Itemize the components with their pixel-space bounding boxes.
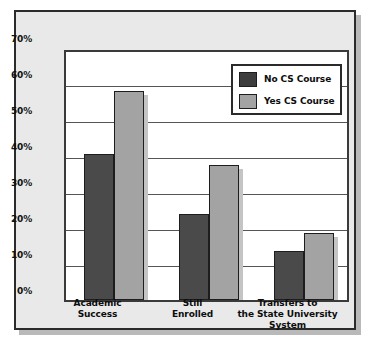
x-axis-category-label-line: Academic	[52, 298, 144, 309]
x-axis-category-label-line: Success	[52, 309, 144, 320]
legend: No CS Course Yes CS Course	[231, 64, 342, 115]
x-axis-category-label-line: Still	[147, 298, 239, 309]
x-axis-category-label-line: the State University	[228, 309, 348, 320]
x-axis-category-label-line: Enrolled	[147, 309, 239, 320]
legend-label-no-cs-course: No CS Course	[264, 74, 331, 84]
bar[interactable]	[84, 154, 114, 300]
x-axis-category-label: Transfers tothe State UniversitySystem	[228, 298, 348, 331]
bar[interactable]	[274, 251, 304, 300]
gridline	[66, 122, 347, 123]
y-axis-tick-label: 20%	[4, 214, 32, 224]
bar[interactable]	[179, 214, 209, 300]
x-axis-category-label: AcademicSuccess	[52, 298, 144, 320]
y-axis-tick-label: 40%	[4, 142, 32, 152]
legend-item-no-cs-course[interactable]: No CS Course	[239, 70, 331, 88]
legend-label-yes-cs-course: Yes CS Course	[264, 96, 334, 106]
y-axis-tick-label: 30%	[4, 178, 32, 188]
y-axis-tick-label: 70%	[4, 34, 32, 44]
x-axis-category-label: StillEnrolled	[147, 298, 239, 320]
y-axis-tick-label: 0%	[4, 286, 32, 296]
x-axis-category-label-line: System	[228, 320, 348, 331]
y-axis-tick-label: 60%	[4, 70, 32, 80]
chart-panel: 0%10%20%30%40%50%60%70% No CS Course Yes…	[14, 10, 356, 330]
legend-swatch-icon-yes-cs-course	[239, 94, 257, 109]
bar[interactable]	[209, 165, 239, 300]
legend-item-yes-cs-course[interactable]: Yes CS Course	[239, 92, 334, 110]
bar[interactable]	[304, 233, 334, 300]
chart-figure: 0%10%20%30%40%50%60%70% No CS Course Yes…	[0, 0, 376, 351]
y-axis-tick-label: 50%	[4, 106, 32, 116]
x-axis-category-label-line: Transfers to	[228, 298, 348, 309]
y-axis-tick-label: 10%	[4, 250, 32, 260]
bar[interactable]	[114, 91, 144, 300]
legend-swatch-icon-no-cs-course	[239, 72, 257, 87]
